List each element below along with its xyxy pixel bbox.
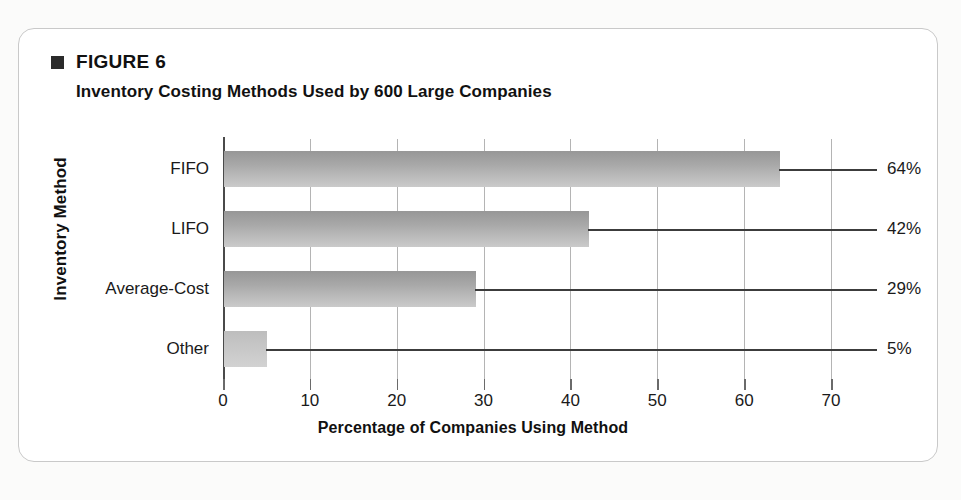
y-axis-category-label: Average-Cost bbox=[105, 279, 209, 299]
bar-other bbox=[224, 331, 267, 367]
figure-frame: FIGURE 6 Inventory Costing Methods Used … bbox=[18, 28, 938, 462]
leader-line bbox=[588, 229, 877, 231]
bar-lifo bbox=[224, 211, 589, 247]
page-background: FIGURE 6 Inventory Costing Methods Used … bbox=[0, 0, 961, 500]
x-axis-tick-label: 70 bbox=[822, 391, 841, 411]
leader-line bbox=[475, 289, 877, 291]
y-axis-category-label: FIFO bbox=[170, 159, 209, 179]
bar-average-cost bbox=[224, 271, 476, 307]
x-axis-tick bbox=[223, 379, 225, 390]
x-axis-tick bbox=[744, 379, 746, 390]
bar-value-label: 5% bbox=[887, 339, 912, 359]
x-axis-tick-label: 10 bbox=[300, 391, 319, 411]
x-axis-tick-label: 30 bbox=[474, 391, 493, 411]
plot-area: 010203040506070FIFO64%LIFO42%Average-Cos… bbox=[223, 139, 831, 379]
x-axis-tick-label: 50 bbox=[648, 391, 667, 411]
bar-chart: Inventory Method Percentage of Companies… bbox=[19, 29, 939, 463]
y-axis-category-label: Other bbox=[166, 339, 209, 359]
leader-line bbox=[266, 349, 877, 351]
leader-line bbox=[779, 169, 877, 171]
x-axis-tick-label: 0 bbox=[218, 391, 227, 411]
x-gridline bbox=[831, 139, 832, 379]
y-axis-title: Inventory Method bbox=[51, 129, 71, 329]
x-axis-tick-label: 40 bbox=[561, 391, 580, 411]
x-axis-title: Percentage of Companies Using Method bbox=[223, 419, 723, 437]
x-axis-tick bbox=[831, 379, 833, 390]
x-axis-tick bbox=[484, 379, 486, 390]
bar-value-label: 29% bbox=[887, 279, 921, 299]
x-axis-tick bbox=[310, 379, 312, 390]
x-axis-tick bbox=[397, 379, 399, 390]
y-axis-category-label: LIFO bbox=[171, 219, 209, 239]
x-axis-tick bbox=[570, 379, 572, 390]
x-axis-tick bbox=[657, 379, 659, 390]
bar-value-label: 64% bbox=[887, 159, 921, 179]
x-axis-tick-label: 20 bbox=[387, 391, 406, 411]
bar-value-label: 42% bbox=[887, 219, 921, 239]
x-axis-tick-label: 60 bbox=[735, 391, 754, 411]
bar-fifo bbox=[224, 151, 780, 187]
